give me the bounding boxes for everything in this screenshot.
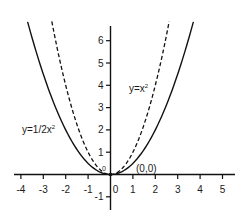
label-half-x-squared: y=1/2x2 xyxy=(22,124,56,135)
y-tick-label: 1 xyxy=(98,147,104,158)
x-axis-ticks: -4-3-2-1012345 xyxy=(16,175,225,195)
y-tick-label: -1 xyxy=(95,191,104,202)
x-tick-label: -1 xyxy=(84,184,93,195)
parabola-chart: -4-3-2-1012345 -1123456 y=1/2x2 y=x2 (0,… xyxy=(0,0,248,216)
label-x-squared: y=x2 xyxy=(129,83,149,94)
origin-small-label: 0 xyxy=(102,165,106,172)
origin-annotation: (0,0) xyxy=(136,163,157,174)
x-tick-label: 0 xyxy=(113,184,119,195)
x-tick-label: -2 xyxy=(61,184,70,195)
y-tick-label: 5 xyxy=(98,58,104,69)
y-tick-label: 6 xyxy=(98,35,104,46)
y-axis-ticks: -1123456 xyxy=(95,35,111,202)
x-tick-label: -4 xyxy=(16,184,25,195)
x-tick-label: 1 xyxy=(130,184,136,195)
x-tick-label: 5 xyxy=(220,184,226,195)
x-tick-label: -3 xyxy=(39,184,48,195)
y-tick-label: 2 xyxy=(98,124,104,135)
y-tick-label: 4 xyxy=(98,80,104,91)
x-tick-label: 3 xyxy=(175,184,181,195)
y-tick-label: 3 xyxy=(98,102,104,113)
origin-point xyxy=(109,173,113,177)
axes xyxy=(14,26,235,210)
x-tick-label: 2 xyxy=(153,184,159,195)
x-tick-label: 4 xyxy=(197,184,203,195)
